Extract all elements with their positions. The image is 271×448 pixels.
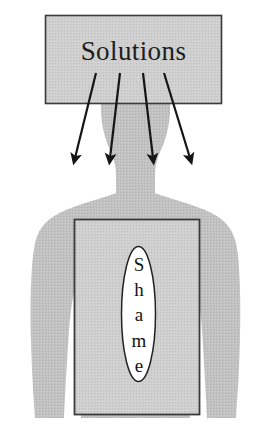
shame-letter-3: a: [122, 302, 156, 327]
diagram-illustration: [0, 0, 271, 448]
diagram-canvas: Solutions S h a m e: [0, 0, 271, 448]
shame-letter-5: e: [122, 353, 156, 378]
shame-letter-1: S: [122, 252, 156, 277]
shame-label: S h a m e: [122, 252, 156, 378]
solutions-label: Solutions: [45, 36, 222, 66]
shame-letter-2: h: [122, 277, 156, 302]
shame-letter-4: m: [122, 328, 156, 353]
